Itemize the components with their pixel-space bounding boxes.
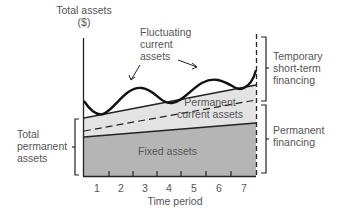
label-line: Fluctuating: [140, 26, 191, 38]
x-tick-label: 7: [241, 182, 247, 194]
label-line: assets: [17, 152, 67, 164]
permanent-financing-label: Permanent financing: [273, 124, 324, 148]
label-line: financing: [273, 74, 323, 86]
fluctuating-current-assets-label: Fluctuating current assets: [140, 26, 191, 62]
label-line: permanent: [17, 140, 67, 152]
fixed-assets-label: Fixed assets: [138, 145, 197, 157]
x-tick-label: 2: [118, 182, 124, 194]
label-line: Temporary: [273, 50, 323, 62]
x-tick-label: 1: [94, 182, 100, 194]
label-line: Permanent: [273, 124, 324, 136]
label-line: current: [140, 38, 191, 50]
temporary-financing-label: Temporary short-term financing: [273, 50, 323, 86]
label-line: Permanent: [170, 96, 250, 108]
x-tick-label: 6: [216, 182, 222, 194]
label-line: financing: [273, 136, 324, 148]
x-tick-label: 4: [166, 182, 172, 194]
label-arrows: [129, 60, 197, 80]
y-axis-label-line2: ($): [46, 16, 122, 28]
right-brackets: [261, 37, 269, 173]
x-tick-label: 3: [142, 182, 148, 194]
permanent-current-assets-label: Permanent current assets: [170, 96, 250, 120]
label-line: current assets: [170, 108, 250, 120]
left-bracket: [72, 119, 79, 175]
y-axis-label: Total assets ($): [46, 4, 122, 28]
label-line: assets: [140, 50, 191, 62]
label-line: short-term: [273, 62, 323, 74]
total-permanent-assets-label: Total permanent assets: [17, 128, 67, 164]
x-axis-label: Time period: [130, 195, 220, 207]
y-axis-label-line1: Total assets: [46, 4, 122, 16]
x-tick-label: 5: [191, 182, 197, 194]
label-line: Total: [17, 128, 67, 140]
